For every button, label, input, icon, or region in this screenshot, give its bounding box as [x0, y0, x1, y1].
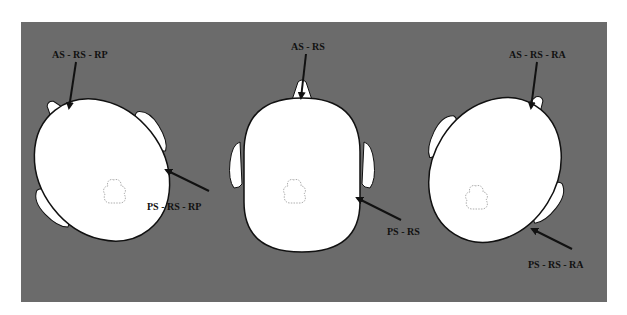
- label-center-bottom: PS - RS: [387, 226, 420, 237]
- label-left-top: AS - RS - RP: [52, 49, 108, 60]
- skull-center: [244, 98, 360, 252]
- diagram-canvas: AS - RS - RP PS - RS - RP AS - RS PS - R…: [0, 0, 627, 315]
- figure: AS - RS - RP PS - RS - RP AS - RS PS - R…: [0, 0, 627, 315]
- label-center-top: AS - RS: [291, 41, 325, 52]
- label-right-bottom: PS - RS - RA: [528, 259, 584, 270]
- label-right-top: AS - RS - RA: [509, 49, 566, 60]
- label-left-bottom: PS - RS - RP: [147, 201, 201, 212]
